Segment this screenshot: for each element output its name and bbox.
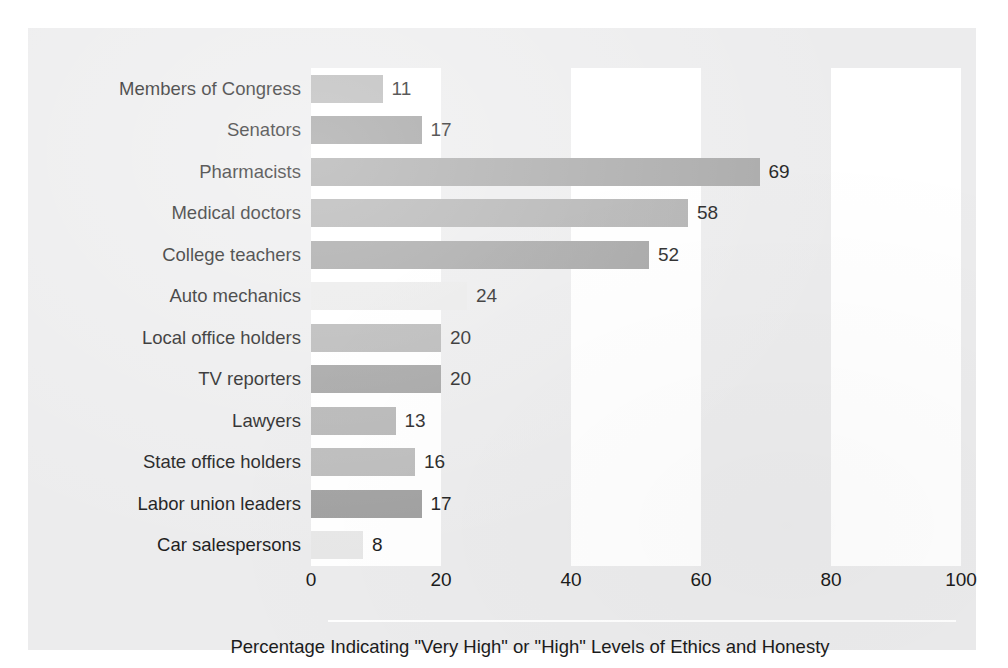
bar-row: 52 xyxy=(311,241,961,269)
bar xyxy=(311,282,467,310)
bar-row: 17 xyxy=(311,490,961,518)
bar-value-label: 52 xyxy=(658,244,679,266)
bar xyxy=(311,448,415,476)
bar xyxy=(311,407,396,435)
bar xyxy=(311,75,383,103)
bar-row: 11 xyxy=(311,75,961,103)
category-label: Lawyers xyxy=(232,407,301,435)
plot-area: 11176958522420201316178 xyxy=(311,68,961,566)
x-tick-label: 100 xyxy=(945,569,977,591)
chart-panel: Members of CongressSenatorsPharmacistsMe… xyxy=(28,28,976,650)
bar xyxy=(311,490,422,518)
bar xyxy=(311,199,688,227)
x-tick-label: 0 xyxy=(306,569,317,591)
bar xyxy=(311,158,760,186)
bar-value-label: 69 xyxy=(769,161,790,183)
category-label: College teachers xyxy=(162,241,301,269)
x-tick-label: 60 xyxy=(690,569,711,591)
bar-row: 8 xyxy=(311,531,961,559)
bar-row: 16 xyxy=(311,448,961,476)
bar xyxy=(311,365,441,393)
bar-value-label: 20 xyxy=(450,327,471,349)
category-label: Medical doctors xyxy=(171,199,301,227)
bar-row: 58 xyxy=(311,199,961,227)
bar-value-label: 20 xyxy=(450,368,471,390)
bar-value-label: 13 xyxy=(405,410,426,432)
x-tick-label: 40 xyxy=(560,569,581,591)
category-label: TV reporters xyxy=(198,365,301,393)
x-tick-label: 20 xyxy=(430,569,451,591)
bar xyxy=(311,531,363,559)
bar-value-label: 11 xyxy=(392,78,412,100)
x-axis-ticks: 020406080100 xyxy=(311,569,961,603)
bar-value-label: 58 xyxy=(697,202,718,224)
bar-row: 17 xyxy=(311,116,961,144)
category-label: Car salespersons xyxy=(157,531,301,559)
bar-row: 24 xyxy=(311,282,961,310)
x-tick-label: 80 xyxy=(820,569,841,591)
category-label: Local office holders xyxy=(142,324,301,352)
category-label: Auto mechanics xyxy=(169,282,301,310)
axis-rule xyxy=(328,620,956,622)
category-label: Pharmacists xyxy=(199,158,301,186)
bar-row: 13 xyxy=(311,407,961,435)
bar-row: 20 xyxy=(311,324,961,352)
bar-value-label: 8 xyxy=(372,534,383,556)
bar-value-label: 17 xyxy=(431,119,452,141)
category-axis-labels: Members of CongressSenatorsPharmacistsMe… xyxy=(88,68,301,566)
bar xyxy=(311,241,649,269)
category-label: Senators xyxy=(227,116,301,144)
x-axis-title: Percentage Indicating "Very High" or "Hi… xyxy=(56,636,1004,658)
bar-row: 69 xyxy=(311,158,961,186)
category-label: Members of Congress xyxy=(119,75,301,103)
bar-row: 20 xyxy=(311,365,961,393)
bar xyxy=(311,324,441,352)
bar xyxy=(311,116,422,144)
bar-value-label: 24 xyxy=(476,285,497,307)
chart-figure: Members of CongressSenatorsPharmacistsMe… xyxy=(0,0,1008,668)
category-label: Labor union leaders xyxy=(137,490,301,518)
category-label: State office holders xyxy=(143,448,301,476)
bar-value-label: 17 xyxy=(431,493,452,515)
bar-value-label: 16 xyxy=(424,451,445,473)
